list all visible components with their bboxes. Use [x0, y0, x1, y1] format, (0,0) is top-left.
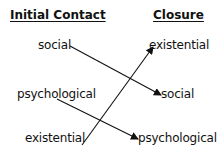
connection-arrows — [0, 0, 224, 160]
arrow-psychological-to-psychological — [57, 99, 138, 139]
arrow-existential-to-existential — [82, 47, 153, 145]
arrow-social-to-social — [70, 46, 161, 95]
diagram-canvas: Initial Contact Closure social psycholog… — [0, 0, 224, 160]
